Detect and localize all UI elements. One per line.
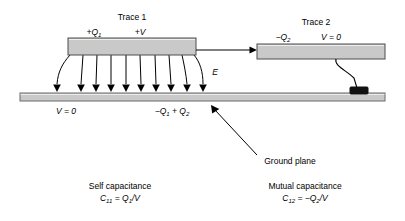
trace2-conductor <box>257 44 385 59</box>
field-line-1 <box>57 55 70 84</box>
ground-wire-path <box>336 59 357 88</box>
mutual-cap-tail: /V <box>320 193 328 203</box>
trace1-title: Trace 1 <box>118 13 147 22</box>
mutual-cap-rhs-sub: 2 <box>316 198 319 204</box>
efield-label: E <box>212 68 218 77</box>
capacitance-diagram: Trace 1 +Q1 +V Trace 2 −Q2 V = 0 E V = 0… <box>0 0 405 221</box>
field-arrowhead-10 <box>199 85 207 93</box>
ground-pointer-head <box>211 105 219 114</box>
ground-charge-symbol-2: + Q <box>170 106 186 116</box>
trace2-voltage-label: V = 0 <box>321 33 341 42</box>
trace1-charge-symbol: +Q <box>87 27 99 37</box>
field-line-6 <box>140 55 141 84</box>
trace1-conductor <box>68 38 196 55</box>
self-capacitance-caption: Self capacitance C11 = Q1/V <box>89 180 151 205</box>
field-line-10 <box>194 55 203 84</box>
self-cap-rhs: = Q <box>112 193 128 203</box>
mutual-cap-rhs: = −Q <box>295 193 316 203</box>
ground-plane-bar <box>20 93 385 101</box>
ground-charge-subscript-1: 1 <box>166 111 169 117</box>
ground-pad <box>350 87 368 94</box>
ground-charge-subscript-2: 2 <box>186 111 189 117</box>
field-arrowhead-6 <box>137 85 145 93</box>
ground-pointer-shaft <box>215 110 257 155</box>
electric-field-lines <box>53 55 207 92</box>
trace1-rect <box>68 38 196 55</box>
field-arrowhead-2 <box>77 85 85 93</box>
ground-plane-label: Ground plane <box>264 157 316 166</box>
field-arrowhead-8 <box>167 85 175 93</box>
trace2-title: Trace 2 <box>302 18 331 27</box>
self-capacitance-formula: C11 = Q1/V <box>89 192 151 204</box>
field-arrowhead-3 <box>92 85 100 93</box>
self-capacitance-title: Self capacitance <box>89 180 151 192</box>
trace2-charge-subscript: 2 <box>287 37 290 43</box>
self-cap-tail: /V <box>132 193 140 203</box>
ground-plane-pointer <box>211 105 257 155</box>
trace2-charge-symbol: −Q <box>276 32 288 42</box>
ground-voltage-label: V = 0 <box>56 107 76 116</box>
field-arrowhead-4 <box>107 85 115 93</box>
trace1-charge-subscript: 1 <box>98 32 101 38</box>
field-arrowhead-7 <box>152 85 160 93</box>
field-line-3 <box>96 55 97 84</box>
self-cap-lhs-sub: 11 <box>106 198 112 204</box>
mutual-cap-lhs-sub: 12 <box>288 198 295 204</box>
ground-charge-symbol-1: −Q <box>155 106 167 116</box>
coupling-arrow <box>196 46 257 53</box>
mutual-capacitance-formula: C12 = −Q2/V <box>268 192 341 204</box>
ground-connection-wire <box>336 59 368 94</box>
trace1-charge-label: +Q1 <box>87 28 102 37</box>
field-arrowhead-9 <box>183 85 191 93</box>
field-arrowhead-1 <box>53 85 61 93</box>
field-arrowhead-5 <box>122 85 130 93</box>
trace1-voltage-label: +V <box>135 28 146 37</box>
field-line-2 <box>81 55 83 84</box>
field-line-7 <box>155 55 156 84</box>
coupling-arrow-head <box>250 46 258 53</box>
self-cap-rhs-sub: 1 <box>129 198 132 204</box>
trace2-rect <box>257 44 385 59</box>
ground-charge-label: −Q1 + Q2 <box>155 107 190 116</box>
field-line-8 <box>169 55 171 84</box>
field-line-9 <box>182 55 187 84</box>
field-line-arrowheads <box>53 85 207 93</box>
mutual-capacitance-title: Mutual capacitance <box>268 180 341 192</box>
mutual-capacitance-caption: Mutual capacitance C12 = −Q2/V <box>268 180 341 205</box>
trace2-charge-label: −Q2 <box>276 33 291 42</box>
